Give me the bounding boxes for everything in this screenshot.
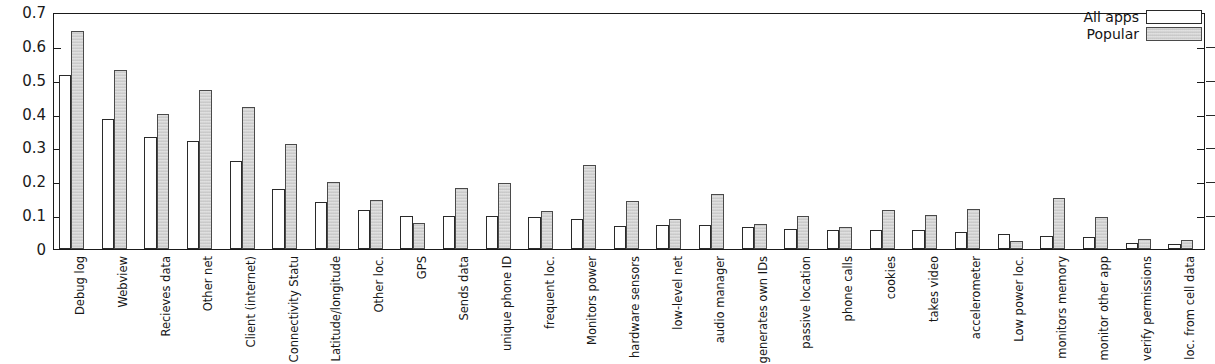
bar-popular <box>797 216 810 249</box>
bar-all-apps <box>955 232 968 249</box>
bar-popular <box>455 188 468 249</box>
bar-popular <box>583 165 596 249</box>
x-axis-tick-label: hardware sensors <box>630 256 642 358</box>
legend-item-all-apps: All apps <box>1084 10 1202 24</box>
bar-group <box>656 14 681 249</box>
x-axis-tick-label: unique phone ID <box>502 256 514 351</box>
bar-group <box>571 14 596 249</box>
plot-frame <box>53 13 1205 250</box>
bar-group <box>742 14 767 249</box>
bar-group <box>59 14 84 249</box>
bar-all-apps <box>315 202 328 249</box>
bar-group <box>699 14 724 249</box>
y-axis-tick-label: 0.2 <box>2 175 46 190</box>
bar-all-apps <box>272 189 285 249</box>
bar-all-apps <box>1168 244 1181 249</box>
bar-group <box>486 14 511 249</box>
bar-all-apps <box>1126 243 1139 249</box>
bar-group <box>443 14 468 249</box>
bar-all-apps <box>912 230 925 249</box>
x-axis-tick-label: Webview <box>118 256 130 308</box>
legend-swatch-all-apps <box>1146 10 1202 24</box>
bar-group <box>1040 14 1065 249</box>
right-edge-tick-mark <box>1206 182 1215 183</box>
bar-group <box>315 14 340 249</box>
bar-all-apps <box>187 141 200 249</box>
bar-all-apps <box>443 216 456 249</box>
x-axis-tick-label: Recieves data <box>161 256 173 337</box>
bar-popular <box>1010 241 1023 249</box>
x-axis-tick-label: cookies <box>886 256 898 299</box>
x-axis-tick-label: generates own IDs <box>758 256 770 363</box>
bar-popular <box>498 183 511 249</box>
bar-group <box>870 14 895 249</box>
bar-popular <box>711 194 724 249</box>
bar-popular <box>1053 198 1066 249</box>
x-axis-tick-label: verify permissions <box>1142 256 1154 361</box>
bar-group <box>1126 14 1151 249</box>
x-axis-tick-label: Debug log <box>75 256 87 315</box>
x-axis-tick-label: audio manager <box>715 256 727 343</box>
x-axis-tick-label: monitors memory <box>1057 256 1069 359</box>
bar-popular <box>199 90 212 249</box>
bar-popular <box>925 215 938 249</box>
x-axis-tick-label: Latitude/longitude <box>331 256 343 361</box>
x-axis-tick-label: monitor other app <box>1099 256 1111 361</box>
bar-all-apps <box>870 230 883 249</box>
right-edge-tick-mark <box>1206 148 1215 149</box>
x-axis-tick-label: passive location <box>801 256 813 349</box>
bar-all-apps <box>486 216 499 249</box>
bar-popular <box>882 210 895 249</box>
bar-group <box>827 14 852 249</box>
bar-all-apps <box>1040 236 1053 249</box>
bar-group <box>187 14 212 249</box>
bar-all-apps <box>827 230 840 249</box>
right-edge-tick-mark <box>1206 115 1215 116</box>
bar-popular <box>114 70 127 249</box>
legend-item-popular: Popular <box>1087 27 1203 41</box>
bar-all-apps <box>656 225 669 249</box>
bar-group <box>272 14 297 249</box>
bar-group <box>784 14 809 249</box>
bar-popular <box>242 107 255 249</box>
bar-all-apps <box>784 229 797 249</box>
bar-all-apps <box>614 226 627 249</box>
x-axis-tick-label: Other net <box>203 256 215 311</box>
right-edge-tick-mark <box>1206 216 1215 217</box>
bar-popular <box>1181 240 1194 249</box>
x-axis-tick-label: accelerometer <box>971 256 983 339</box>
bar-group <box>912 14 937 249</box>
chart-legend: All apps Popular <box>1080 8 1204 43</box>
bar-group <box>1083 14 1108 249</box>
bar-all-apps <box>998 234 1011 249</box>
x-axis-tick-label: Other loc. <box>374 256 386 313</box>
bar-all-apps <box>528 217 541 249</box>
x-axis-tick-label: GPS <box>417 256 429 279</box>
bar-all-apps <box>699 225 712 249</box>
x-axis-tick-label: phone calls <box>843 256 855 321</box>
bar-popular <box>541 211 554 249</box>
bar-popular <box>327 182 340 249</box>
y-axis-tick-label: 0 <box>2 243 46 258</box>
bar-group <box>400 14 425 249</box>
bar-popular <box>626 201 639 249</box>
legend-label-all-apps: All apps <box>1084 10 1139 24</box>
bar-all-apps <box>571 219 584 249</box>
bar-popular <box>71 31 84 249</box>
x-axis-tick-label: loc. from cell data <box>1185 256 1197 360</box>
y-axis-tick-label: 0.7 <box>2 6 46 21</box>
bar-group <box>955 14 980 249</box>
bar-popular <box>754 224 767 249</box>
bar-popular <box>157 114 170 249</box>
bar-all-apps <box>1083 237 1096 249</box>
bar-group <box>230 14 255 249</box>
bar-popular <box>967 209 980 249</box>
bar-all-apps <box>742 227 755 249</box>
right-edge-tick-mark <box>1206 81 1215 82</box>
bar-group <box>144 14 169 249</box>
bar-group <box>358 14 383 249</box>
bar-group <box>102 14 127 249</box>
x-axis-tick-label: takes video <box>929 256 941 322</box>
bar-group <box>528 14 553 249</box>
x-axis-tick-labels: Debug logWebviewRecieves dataOther netCl… <box>53 250 1205 364</box>
